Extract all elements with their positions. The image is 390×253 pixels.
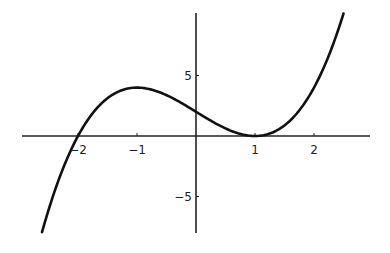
y-tick-label: 5	[184, 69, 192, 83]
x-tick-label: 1	[251, 143, 259, 157]
chart: −2−112 5−5	[0, 0, 390, 253]
y-tick-label: −5	[174, 190, 192, 204]
x-tick-label: 2	[310, 143, 318, 157]
function-curve	[42, 13, 343, 232]
x-tick-label: −1	[128, 143, 146, 157]
